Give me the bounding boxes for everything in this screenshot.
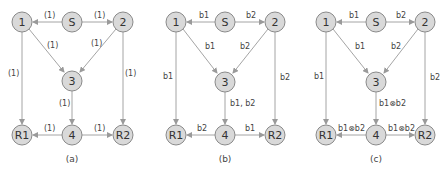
edge-label-1-3: b1 bbox=[205, 42, 215, 51]
svg-text:4: 4 bbox=[222, 129, 229, 142]
svg-text:2: 2 bbox=[422, 16, 429, 29]
edge-label-3-4: b1⊗b2 bbox=[379, 99, 406, 108]
svg-text:R2: R2 bbox=[418, 129, 433, 142]
svg-text:R2: R2 bbox=[268, 129, 283, 142]
node-4: 4 bbox=[366, 125, 386, 145]
caption-b: (b) bbox=[219, 154, 232, 164]
svg-text:S: S bbox=[373, 16, 380, 29]
node-4: 4 bbox=[62, 125, 82, 145]
edge-2-3 bbox=[384, 29, 418, 73]
edge-label-s-1: b1 bbox=[199, 11, 209, 20]
svg-text:S: S bbox=[222, 16, 229, 29]
node-1: 1 bbox=[12, 12, 32, 32]
edge-label-1-3: b1 bbox=[355, 42, 365, 51]
edge-1-3 bbox=[183, 29, 217, 73]
edge-label-2-3: (1) bbox=[91, 39, 102, 48]
edge-label-3-4: b1, b2 bbox=[230, 99, 255, 108]
edge-label-4-r1: (1) bbox=[44, 124, 55, 133]
edge-label-4-r2: b1 bbox=[245, 124, 255, 133]
svg-text:2: 2 bbox=[272, 16, 279, 29]
node-s: S bbox=[62, 12, 82, 32]
node-s: S bbox=[215, 12, 235, 32]
edge-label-2-r2: (1) bbox=[125, 69, 136, 78]
svg-text:3: 3 bbox=[222, 76, 229, 89]
edge-label-2-r2: b2 bbox=[430, 73, 440, 82]
edge-label-1-3: (1) bbox=[47, 41, 58, 50]
svg-text:R1: R1 bbox=[319, 129, 334, 142]
panel-b: b1 b2 b1 b2 b1 b2 b1, b2 b2 b1 1 S 2 3 R… bbox=[163, 11, 290, 164]
node-3: 3 bbox=[366, 72, 386, 92]
node-2: 2 bbox=[113, 12, 133, 32]
edge-label-1-r1: (1) bbox=[8, 69, 19, 78]
node-r1: R1 bbox=[316, 125, 336, 145]
edge-label-4-r1: b2 bbox=[197, 124, 207, 133]
svg-text:3: 3 bbox=[69, 75, 76, 88]
edge-1-3 bbox=[29, 29, 64, 72]
edge-label-s-2: b2 bbox=[396, 11, 406, 20]
edge-label-s-1: (1) bbox=[44, 11, 55, 20]
panel-c: b1 b2 b1 b2 b1 b2 b1⊗b2 b1⊗b2 b1⊗b2 1 S … bbox=[314, 11, 440, 164]
svg-text:R1: R1 bbox=[15, 129, 30, 142]
svg-text:2: 2 bbox=[120, 16, 127, 29]
edge-label-4-r2: (1) bbox=[94, 124, 105, 133]
panel-a: (1) (1) (1) (1) (1) (1) (1) (1) (1) 1 S … bbox=[8, 11, 136, 164]
svg-text:1: 1 bbox=[19, 16, 26, 29]
edge-label-4-r2: b1⊗b2 bbox=[388, 124, 415, 133]
node-3: 3 bbox=[215, 72, 235, 92]
node-r2: R2 bbox=[113, 125, 133, 145]
edge-1-3 bbox=[333, 29, 368, 73]
edge-label-2-r2: b2 bbox=[280, 73, 290, 82]
svg-text:1: 1 bbox=[323, 16, 330, 29]
node-1: 1 bbox=[316, 12, 336, 32]
node-2: 2 bbox=[265, 12, 285, 32]
node-r2: R2 bbox=[265, 125, 285, 145]
node-1: 1 bbox=[166, 12, 186, 32]
edge-label-2-3: b2 bbox=[240, 42, 250, 51]
svg-text:4: 4 bbox=[69, 129, 76, 142]
caption-c: (c) bbox=[370, 154, 382, 164]
svg-text:R1: R1 bbox=[169, 129, 184, 142]
edge-label-3-4: (1) bbox=[59, 99, 70, 108]
node-r2: R2 bbox=[415, 125, 435, 145]
edge-label-2-3: b2 bbox=[391, 42, 401, 51]
edge-label-s-2: (1) bbox=[94, 11, 105, 20]
svg-text:4: 4 bbox=[373, 129, 380, 142]
svg-text:R2: R2 bbox=[116, 129, 131, 142]
svg-text:3: 3 bbox=[373, 76, 380, 89]
edge-label-4-r1: b1⊗b2 bbox=[338, 124, 365, 133]
edge-2-3 bbox=[233, 29, 268, 73]
edge-label-1-r1: b1 bbox=[163, 72, 173, 81]
node-s: S bbox=[366, 12, 386, 32]
edge-label-s-1: b1 bbox=[349, 11, 359, 20]
edge-label-s-2: b2 bbox=[246, 11, 256, 20]
node-2: 2 bbox=[415, 12, 435, 32]
node-r1: R1 bbox=[166, 125, 186, 145]
edge-label-1-r1: b1 bbox=[314, 72, 324, 81]
node-4: 4 bbox=[215, 125, 235, 145]
caption-a: (a) bbox=[66, 154, 79, 164]
svg-text:1: 1 bbox=[173, 16, 180, 29]
svg-text:S: S bbox=[69, 16, 76, 29]
node-3: 3 bbox=[62, 71, 82, 91]
node-r1: R1 bbox=[12, 125, 32, 145]
network-coding-diagram: (1) (1) (1) (1) (1) (1) (1) (1) (1) 1 S … bbox=[0, 0, 448, 173]
edge-2-3 bbox=[80, 29, 116, 72]
